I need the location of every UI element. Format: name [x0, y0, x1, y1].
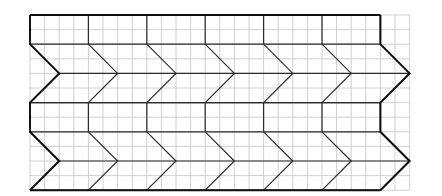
tessellation-diagram [0, 0, 442, 196]
